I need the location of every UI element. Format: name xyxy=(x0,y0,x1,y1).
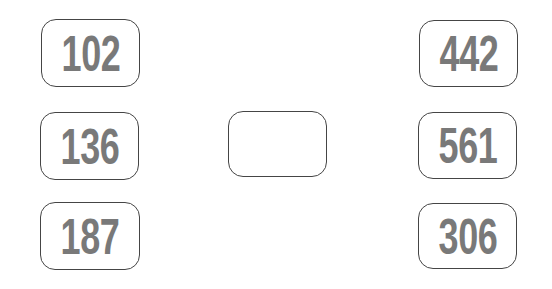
number-label: 561 xyxy=(438,121,497,171)
number-label: 442 xyxy=(439,29,498,79)
number-box-442: 442 xyxy=(419,20,518,87)
number-box-561: 561 xyxy=(418,112,517,179)
number-box-102: 102 xyxy=(41,19,140,87)
number-box-187: 187 xyxy=(40,202,140,270)
number-label: 306 xyxy=(438,212,497,262)
number-box-306: 306 xyxy=(418,203,517,269)
number-box-136: 136 xyxy=(40,112,139,180)
empty-answer-box[interactable] xyxy=(228,111,327,177)
number-label: 136 xyxy=(60,122,119,172)
number-label: 102 xyxy=(61,29,120,79)
number-label: 187 xyxy=(61,212,120,262)
